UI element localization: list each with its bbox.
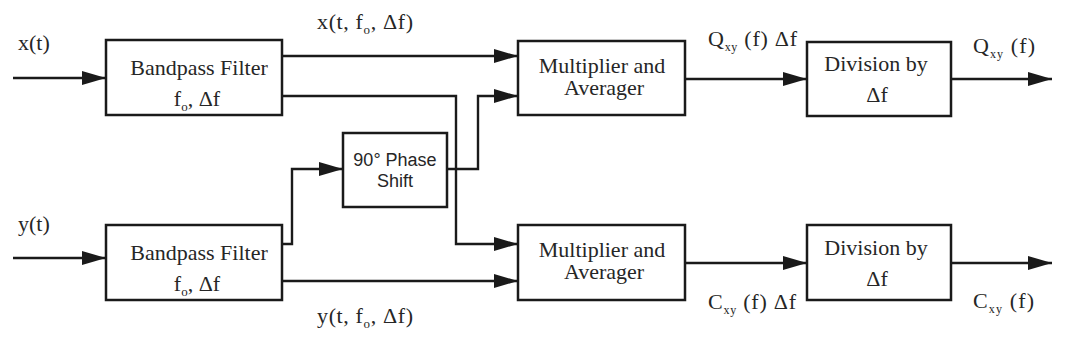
output-c-label: Cxy (f) bbox=[973, 288, 1034, 316]
signal-rest: (f) bbox=[1004, 33, 1035, 58]
signal-main: C bbox=[973, 288, 988, 313]
signal-rest: (f) bbox=[1003, 288, 1034, 313]
bandpass-filter-x-title: Bandpass Filter bbox=[130, 55, 268, 80]
phase-shift-line1: 90° Phase bbox=[353, 150, 436, 170]
signal-sub: xy bbox=[723, 303, 736, 317]
signal-sub: o bbox=[364, 316, 371, 331]
multiplier-averager-c-block: Multiplier and Averager bbox=[518, 225, 685, 300]
division-c-line1: Division by bbox=[824, 235, 927, 260]
phase-shift-box bbox=[343, 133, 447, 207]
signal-sub: xy bbox=[725, 40, 738, 54]
signal-sub: xy bbox=[990, 47, 1003, 61]
input-x-label: x(t) bbox=[18, 30, 50, 55]
signal-rest: (f) Δf bbox=[738, 26, 798, 51]
param-rest: , Δf bbox=[188, 86, 221, 111]
bandpass-filter-y-title: Bandpass Filter bbox=[130, 240, 268, 265]
signal-main: x(t, f bbox=[317, 9, 364, 34]
cross-spectrum-block-diagram: x(t) y(t) Bandpass Filter fo, Δf Bandpas… bbox=[0, 0, 1065, 349]
division-c-block: Division by Δf bbox=[807, 225, 951, 300]
bandpass-filter-x-block: Bandpass Filter fo, Δf bbox=[106, 40, 282, 115]
wire-phase-shift-to-multiplier-q bbox=[447, 96, 518, 169]
signal-q-times-df-label: Qxy (f) Δf bbox=[708, 26, 798, 54]
division-q-block: Division by Δf bbox=[807, 42, 951, 116]
division-q-line2: Δf bbox=[866, 82, 888, 107]
signal-rest: (f) Δf bbox=[737, 289, 797, 314]
signal-main: C bbox=[708, 289, 723, 314]
phase-shift-line2: Shift bbox=[377, 171, 413, 191]
division-q-line1: Division by bbox=[824, 51, 927, 76]
signal-y-filtered-label: y(t, fo, Δf) bbox=[317, 303, 413, 331]
signal-rest: , Δf) bbox=[371, 9, 413, 34]
signal-main: Q bbox=[973, 33, 989, 58]
signal-main: Q bbox=[708, 26, 724, 51]
wire-y-filtered-to-phase-shift bbox=[282, 169, 343, 244]
param-rest: , Δf bbox=[188, 271, 221, 296]
bandpass-filter-x-params: fo, Δf bbox=[174, 86, 221, 114]
division-c-line2: Δf bbox=[866, 266, 888, 291]
multiplier-averager-q-block: Multiplier and Averager bbox=[518, 41, 685, 115]
input-y-label: y(t) bbox=[18, 211, 50, 236]
phase-shift-block: 90° Phase Shift bbox=[343, 133, 447, 207]
signal-sub: o bbox=[364, 22, 371, 37]
signal-sub: xy bbox=[989, 302, 1002, 316]
bandpass-filter-y-params: fo, Δf bbox=[174, 271, 221, 299]
signal-main: y(t, f bbox=[317, 303, 364, 328]
output-q-label: Qxy (f) bbox=[973, 33, 1035, 61]
bandpass-filter-y-block: Bandpass Filter fo, Δf bbox=[106, 225, 282, 300]
signal-c-times-df-label: Cxy (f) Δf bbox=[708, 289, 797, 317]
signal-x-filtered-label: x(t, fo, Δf) bbox=[317, 9, 413, 37]
signal-rest: , Δf) bbox=[371, 303, 413, 328]
multiplier-averager-c-line2: Averager bbox=[564, 259, 645, 284]
multiplier-averager-q-line2: Averager bbox=[564, 75, 645, 100]
